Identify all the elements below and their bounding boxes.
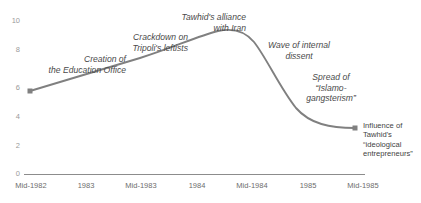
annotation-crackdown-tripoli-leftists: Crackdown on Tripoli's leftists [78,32,188,53]
annotation-wave-internal-dissent: Wave of internal dissent [256,40,342,61]
annotation-spread-islamo-gangsterism: Spread of “Islamo- gangsterism” [288,72,374,104]
annotation-tawhid-alliance-iran: Tawhid's alliance with Iran [140,12,246,33]
line-chart: 10 8 6 4 2 0 Mid-1982 1983 Mid-1983 1984… [0,0,421,203]
annotation-creation-education-office: Creation of the Education Office [4,54,126,75]
start-marker [28,89,33,94]
annotation-influence-ideological-entrepreneurs: Influence of Tawhid's “ideological entre… [363,121,421,159]
end-marker [353,126,358,131]
